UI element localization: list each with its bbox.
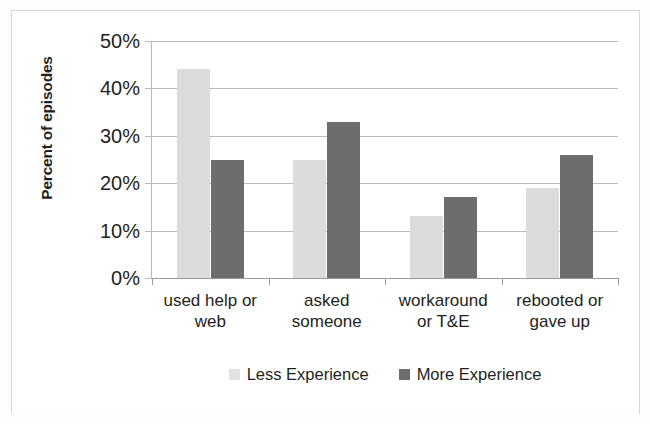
category-label-line: someone xyxy=(264,311,391,332)
y-axis-tick xyxy=(145,136,152,137)
legend-swatch-less-experience xyxy=(229,369,240,380)
x-axis-tick xyxy=(502,278,503,285)
y-axis-tick xyxy=(145,88,152,89)
x-axis-category-label-3: workaroundor T&E xyxy=(380,290,507,332)
y-axis-tick-label: 20% xyxy=(60,173,140,193)
x-axis-tick xyxy=(152,278,153,285)
category-label-line: or T&E xyxy=(380,311,507,332)
y-axis-tick-label: 30% xyxy=(60,126,140,146)
plot-area xyxy=(152,41,618,278)
x-axis-category-label-1: used help orweb xyxy=(147,290,274,332)
gridline-50 xyxy=(152,41,618,42)
y-axis-tick xyxy=(145,278,152,279)
y-axis-tick xyxy=(145,183,152,184)
bar-less-experience-group-2[interactable] xyxy=(293,160,326,279)
y-axis-tick xyxy=(145,231,152,232)
y-axis-tick-label: 50% xyxy=(60,31,140,51)
chart-legend: Less ExperienceMore Experience xyxy=(152,361,618,387)
x-axis-tick xyxy=(618,278,619,285)
category-label-line: rebooted or xyxy=(497,290,624,311)
x-axis-category-labels: used help orwebaskedsomeoneworkaroundor … xyxy=(152,290,618,336)
y-axis-tick xyxy=(145,41,152,42)
legend-item-more-experience[interactable]: More Experience xyxy=(399,366,542,383)
y-axis-tick-label: 40% xyxy=(60,78,140,98)
legend-label: More Experience xyxy=(417,366,542,383)
y-axis-tick-labels: 50%40%30%20%10%0% xyxy=(52,0,140,423)
category-label-line: used help or xyxy=(147,290,274,311)
x-axis-category-label-2: askedsomeone xyxy=(264,290,391,332)
category-label-line: asked xyxy=(264,290,391,311)
x-axis-tick xyxy=(269,278,270,285)
gridline-30 xyxy=(152,136,618,137)
bar-more-experience-group-1[interactable] xyxy=(211,160,244,279)
bar-more-experience-group-2[interactable] xyxy=(327,122,360,278)
category-label-line: workaround xyxy=(380,290,507,311)
x-axis-tick xyxy=(385,278,386,285)
bar-more-experience-group-4[interactable] xyxy=(560,155,593,278)
gridline-40 xyxy=(152,88,618,89)
x-axis-category-label-4: rebooted orgave up xyxy=(497,290,624,332)
category-label-line: web xyxy=(147,311,274,332)
y-axis-tick-label: 10% xyxy=(60,221,140,241)
legend-label: Less Experience xyxy=(247,366,369,383)
bar-less-experience-group-3[interactable] xyxy=(410,216,443,278)
y-axis-tick-label: 0% xyxy=(60,268,140,288)
legend-swatch-more-experience xyxy=(399,369,410,380)
bar-less-experience-group-4[interactable] xyxy=(526,188,559,278)
bar-less-experience-group-1[interactable] xyxy=(177,69,210,278)
category-label-line: gave up xyxy=(497,311,624,332)
legend-item-less-experience[interactable]: Less Experience xyxy=(229,366,369,383)
bar-more-experience-group-3[interactable] xyxy=(444,197,477,278)
